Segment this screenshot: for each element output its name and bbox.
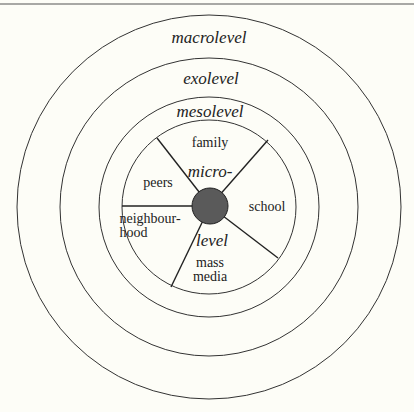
mass-media-line-1: mass	[193, 256, 227, 270]
mesolevel-label: mesolevel	[176, 103, 243, 120]
core-individual-dot	[192, 188, 228, 224]
diagram-canvas	[0, 0, 414, 412]
segment-peers-label: peers	[143, 176, 173, 190]
neighbourhood-line-1: neighbour-	[119, 212, 180, 226]
mass-media-line-2: media	[193, 270, 227, 284]
microlevel-label-bottom: level	[196, 232, 228, 249]
exolevel-label: exolevel	[183, 70, 239, 87]
macrolevel-label: macrolevel	[172, 29, 247, 46]
segment-neighbourhood-label: neighbour- hood	[119, 212, 180, 240]
segment-mass-media-label: mass media	[193, 256, 227, 284]
neighbourhood-line-2: hood	[119, 226, 180, 240]
segment-family-label: family	[192, 136, 229, 150]
microlevel-label-top: micro-	[188, 163, 233, 180]
segment-school-label: school	[249, 200, 286, 214]
ecological-systems-diagram: macrolevel exolevel mesolevel micro- lev…	[0, 0, 414, 412]
